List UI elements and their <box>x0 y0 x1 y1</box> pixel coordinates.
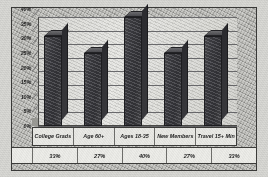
bar-side-face <box>102 39 108 120</box>
bar-new-members[interactable] <box>164 53 182 126</box>
value-cell: 33% <box>33 148 78 163</box>
value-row-legend-key <box>12 148 33 163</box>
y-tick-label: 30% <box>21 35 31 41</box>
y-tick-label: 0% <box>24 123 31 129</box>
bar-front-face <box>44 36 62 126</box>
value-row: 33% 27% 40% 27% 33% <box>11 147 257 164</box>
category-label-cell: College Grads <box>33 128 74 145</box>
value-cell: 27% <box>78 148 123 163</box>
y-tick-label: 10% <box>21 94 31 100</box>
y-tick-label: 20% <box>21 65 31 71</box>
value-cell: 40% <box>123 148 168 163</box>
bar-front-face <box>124 17 142 126</box>
bar-front-face <box>84 53 102 126</box>
category-label-cell: Travel 15+ Min <box>196 128 236 145</box>
bar-front-face <box>164 53 182 126</box>
bar-travel-15-min[interactable] <box>204 36 222 126</box>
bar-side-face <box>182 39 188 120</box>
chart-screenshot: 40% 35% 30% 25% 20% 15% 10% 5% 0% <box>0 0 268 177</box>
bar-front-face <box>204 36 222 126</box>
category-label-cell: Ages 18-35 <box>115 128 156 145</box>
value-cell: 27% <box>167 148 212 163</box>
value-cell: 33% <box>212 148 256 163</box>
bar-side-face <box>142 4 148 120</box>
category-label-cell: New Members <box>155 128 196 145</box>
bar-age-60-plus[interactable] <box>84 53 102 126</box>
bar-college-grads[interactable] <box>44 36 62 126</box>
bar-series <box>38 9 237 126</box>
bar-side-face <box>222 23 228 120</box>
category-label-row: College Grads Age 60+ Ages 18-35 New Mem… <box>32 127 237 146</box>
y-tick-label: 5% <box>24 108 31 114</box>
y-tick-label: 40% <box>21 6 31 12</box>
y-tick-label: 35% <box>21 21 31 27</box>
y-tick-label: 15% <box>21 79 31 85</box>
bar-ages-18-35[interactable] <box>124 17 142 126</box>
y-tick-label: 25% <box>21 50 31 56</box>
y-axis: 40% 35% 30% 25% 20% 15% 10% 5% 0% <box>5 9 31 126</box>
bar-side-face <box>62 23 68 120</box>
category-label-cell: Age 60+ <box>74 128 115 145</box>
